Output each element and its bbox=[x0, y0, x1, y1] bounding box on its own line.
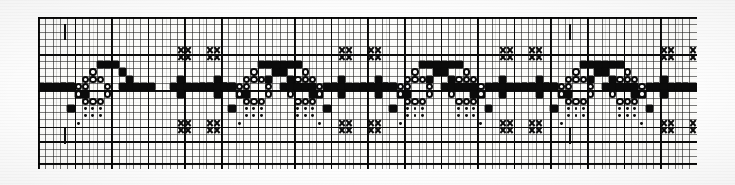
stitch-dot bbox=[616, 105, 623, 112]
stitch-dot bbox=[236, 119, 243, 126]
stitch-square bbox=[646, 105, 653, 112]
stitch-circle bbox=[82, 76, 89, 83]
stitch-circle bbox=[624, 76, 631, 83]
stitch-circle bbox=[477, 90, 484, 97]
stitch-square bbox=[470, 90, 477, 97]
stitch-circle bbox=[236, 83, 243, 90]
stitch-cross bbox=[184, 127, 191, 134]
stitch-circle bbox=[265, 90, 272, 97]
stitch-square bbox=[499, 83, 506, 90]
tick-bottom-left bbox=[64, 128, 66, 144]
stitch-dot bbox=[572, 112, 579, 119]
stitch-dot bbox=[89, 112, 96, 119]
stitch-circle bbox=[309, 98, 316, 105]
stitch-cross bbox=[536, 127, 543, 134]
pattern-chart-page: Cross-Stitch Border Pattern Chart bbox=[0, 0, 735, 185]
stitch-dot bbox=[302, 105, 309, 112]
stitch-dot bbox=[624, 105, 631, 112]
stitch-cross bbox=[499, 127, 506, 134]
stitch-square bbox=[631, 90, 638, 97]
stitch-circle bbox=[463, 98, 470, 105]
stitch-square bbox=[360, 83, 367, 90]
stitch-circle bbox=[470, 98, 477, 105]
stitch-circle bbox=[572, 68, 579, 75]
stitch-square bbox=[258, 61, 265, 68]
stitch-square bbox=[543, 83, 550, 90]
stitch-square bbox=[104, 61, 111, 68]
stitch-dot bbox=[309, 112, 316, 119]
stitch-cross bbox=[214, 127, 221, 134]
stitch-circle bbox=[624, 68, 631, 75]
stitch-circle bbox=[404, 98, 411, 105]
stitch-square bbox=[506, 83, 513, 90]
stitch-dot bbox=[638, 119, 645, 126]
stitch-square bbox=[243, 90, 250, 97]
stitch-cross bbox=[214, 54, 221, 61]
stitch-square bbox=[67, 105, 74, 112]
stitch-dot bbox=[250, 112, 257, 119]
stitch-cross bbox=[206, 127, 213, 134]
stitch-square bbox=[441, 83, 448, 90]
stitch-circle bbox=[631, 76, 638, 83]
stitch-circle bbox=[470, 76, 477, 83]
stitch-dot bbox=[419, 112, 426, 119]
stitch-circle bbox=[411, 68, 418, 75]
stitch-dot bbox=[397, 119, 404, 126]
stitch-square bbox=[609, 61, 616, 68]
stitch-square bbox=[455, 61, 462, 68]
stitch-square bbox=[668, 83, 675, 90]
stitch-square bbox=[140, 83, 147, 90]
stitch-circle bbox=[397, 90, 404, 97]
stitch-circle bbox=[580, 98, 587, 105]
stitch-circle bbox=[82, 98, 89, 105]
stitch-square bbox=[177, 90, 184, 97]
stitch-cross bbox=[367, 54, 374, 61]
stitch-square bbox=[448, 61, 455, 68]
stitch-square bbox=[609, 76, 616, 83]
stitch-square bbox=[375, 76, 382, 83]
stitch-square bbox=[338, 90, 345, 97]
stitch-square bbox=[485, 105, 492, 112]
stitch-square bbox=[338, 83, 345, 90]
stitch-circle bbox=[287, 90, 294, 97]
stitch-dot bbox=[97, 112, 104, 119]
stitch-dot bbox=[463, 105, 470, 112]
stitch-dot bbox=[624, 112, 631, 119]
stitch-square bbox=[675, 83, 682, 90]
stitch-dot bbox=[572, 105, 579, 112]
stitch-cross bbox=[689, 54, 696, 61]
stitch-circle bbox=[236, 90, 243, 97]
stitch-square bbox=[609, 83, 616, 90]
stitch-circle bbox=[89, 68, 96, 75]
stitch-cross bbox=[367, 127, 374, 134]
stitch-square bbox=[228, 105, 235, 112]
stitch-square bbox=[119, 83, 126, 90]
stitch-square bbox=[60, 83, 67, 90]
stitch-square bbox=[375, 90, 382, 97]
stitch-circle bbox=[616, 76, 623, 83]
stitch-cross bbox=[506, 54, 513, 61]
stitch-circle bbox=[89, 76, 96, 83]
graph-paper-chart[interactable] bbox=[38, 17, 697, 169]
stitch-square bbox=[184, 83, 191, 90]
stitch-dot bbox=[470, 105, 477, 112]
stitch-square bbox=[97, 61, 104, 68]
stitch-cross bbox=[528, 54, 535, 61]
stitch-square bbox=[280, 61, 287, 68]
stitch-square bbox=[177, 76, 184, 83]
stitch-square bbox=[367, 83, 374, 90]
stitch-dot bbox=[404, 105, 411, 112]
stitch-dot bbox=[631, 105, 638, 112]
stitch-square bbox=[660, 76, 667, 83]
document-title: Cross-Stitch Border Pattern Chart bbox=[0, 0, 1, 1]
heavy-grid-lines bbox=[38, 17, 697, 169]
stitch-square bbox=[448, 76, 455, 83]
stitch-cross bbox=[345, 127, 352, 134]
stitch-circle bbox=[455, 76, 462, 83]
stitch-square bbox=[455, 83, 462, 90]
stitch-cross bbox=[375, 127, 382, 134]
stitch-circle bbox=[411, 98, 418, 105]
stitch-circle bbox=[455, 98, 462, 105]
stitch-cross bbox=[345, 54, 352, 61]
stitch-square bbox=[426, 61, 433, 68]
